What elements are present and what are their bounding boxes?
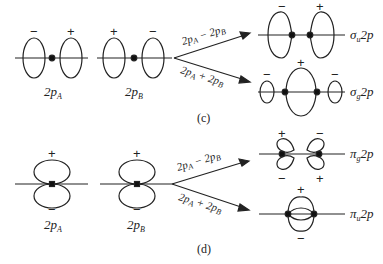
svg-text:−: − xyxy=(149,24,157,39)
mo-diagram: − + + − − + − + − + + + − − + + − 2pA 2p… xyxy=(0,0,383,264)
svg-text:−: − xyxy=(297,231,305,246)
svg-text:−: − xyxy=(316,126,324,141)
svg-text:−: − xyxy=(48,202,56,217)
label-2pb-d: 2pB xyxy=(127,217,145,234)
arrow-label-minus-c: 2pA − 2pB xyxy=(180,22,227,48)
svg-text:−: − xyxy=(278,171,286,186)
panel-d-atomic-b xyxy=(100,160,172,208)
label-2pa-c: 2pA xyxy=(44,84,62,101)
arrow-label-plus-c: 2pA + 2pB xyxy=(179,63,226,89)
caption-c: (c) xyxy=(197,111,210,125)
svg-text:−: − xyxy=(331,67,339,82)
arrow-label-plus-d: 2pA + 2pB xyxy=(177,190,224,216)
label-2pb-c: 2pB xyxy=(125,84,143,101)
label-pi-g: πg2p xyxy=(350,146,374,163)
svg-text:+: + xyxy=(133,146,141,161)
caption-d: (d) xyxy=(197,242,211,256)
panel-c-atomic-a xyxy=(15,38,88,78)
label-sigma-u: σu2p xyxy=(350,27,374,44)
panel-d-pi-g-orbital xyxy=(259,139,345,170)
svg-text:−: − xyxy=(263,67,271,82)
svg-text:+: + xyxy=(316,0,324,14)
svg-text:+: + xyxy=(67,24,75,39)
svg-text:+: + xyxy=(316,171,324,186)
svg-text:+: + xyxy=(278,126,286,141)
svg-text:+: + xyxy=(110,24,118,39)
label-pi-u: πu2p xyxy=(350,206,374,223)
svg-text:−: − xyxy=(278,0,286,14)
label-2pa-d: 2pA xyxy=(44,217,62,234)
panel-d-atomic-a xyxy=(15,160,88,208)
panel-c-sigma-u-orbital xyxy=(258,12,345,58)
label-sigma-g: σg2p xyxy=(350,84,374,101)
panel-c-atomic-b xyxy=(97,38,172,78)
svg-text:+: + xyxy=(297,55,305,70)
svg-text:+: + xyxy=(48,146,56,161)
panel-d-pi-u-orbital xyxy=(259,197,345,231)
svg-text:−: − xyxy=(133,202,141,217)
svg-text:−: − xyxy=(30,24,38,39)
svg-text:+: + xyxy=(297,182,305,197)
